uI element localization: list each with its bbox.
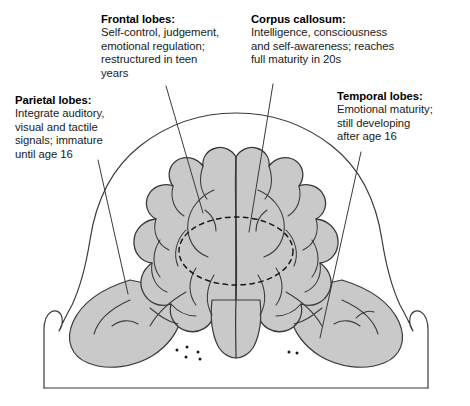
callout-temporal-lobes-title: Temporal lobes: [337, 90, 467, 103]
callout-frontal-lobes-body: Self-control, judgement, emotional regul… [101, 26, 243, 80]
callout-corpus-callosum-title: Corpus callosum: [251, 13, 411, 26]
callout-frontal-lobes-title: Frontal lobes: [101, 13, 243, 26]
callout-parietal-lobes-body: Integrate auditory, visual and tactile s… [15, 107, 147, 161]
callout-parietal-lobes: Parietal lobes: Integrate auditory, visu… [15, 94, 147, 161]
brain-diagram-figure: Frontal lobes: Self-control, judgement, … [0, 0, 470, 406]
callout-parietal-lobes-title: Parietal lobes: [15, 94, 147, 107]
callout-temporal-lobes-body: Emotional maturity; still developing aft… [337, 103, 467, 143]
callout-frontal-lobes: Frontal lobes: Self-control, judgement, … [101, 13, 243, 80]
callout-corpus-callosum-body: Intelligence, consciousness and self-awa… [251, 26, 411, 66]
callout-corpus-callosum: Corpus callosum: Intelligence, conscious… [251, 13, 411, 67]
leader-line-parietal [98, 160, 128, 294]
callout-temporal-lobes: Temporal lobes: Emotional maturity; stil… [337, 90, 467, 144]
